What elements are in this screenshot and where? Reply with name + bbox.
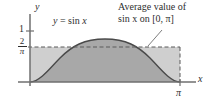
curve-equation-label: y = sin x — [53, 16, 87, 27]
x-axis-label: x — [198, 74, 202, 85]
average-value-sine-figure: Average value of sin x on [0, π] y = sin… — [0, 0, 211, 104]
fraction-denominator: π — [16, 47, 28, 56]
annotation-line-2: sin x on [0, π] — [118, 14, 186, 25]
y-tick-label-two-over-pi: 2 π — [16, 37, 28, 57]
x-tick-label-pi: π — [176, 88, 181, 99]
curve-label-equals: = — [57, 15, 68, 26]
curve-label-variable: x — [80, 15, 87, 26]
average-value-annotation: Average value of sin x on [0, π] — [118, 2, 186, 24]
annotation-leader-line — [148, 30, 162, 46]
fraction-numerator: 2 — [16, 37, 28, 46]
y-tick-label-one: 1 — [19, 24, 24, 35]
curve-label-function: sin — [68, 15, 80, 26]
y-axis-label: y — [35, 2, 39, 13]
annotation-line-1: Average value of — [118, 1, 186, 12]
